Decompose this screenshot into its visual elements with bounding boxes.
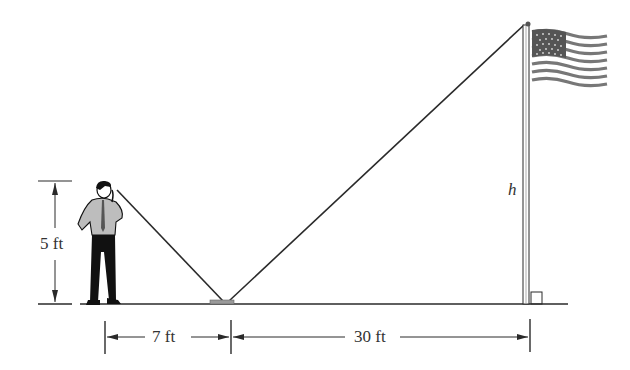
diagram-canvas: 5 ft 7 ft 30 ft h <box>0 0 630 370</box>
distance-30ft-label: 30 ft <box>354 328 386 346</box>
american-flag <box>532 28 607 86</box>
sight-lines <box>117 25 524 301</box>
person-height-label: 5 ft <box>40 235 63 253</box>
person-figure <box>78 181 122 305</box>
right-angle-marker <box>531 292 542 304</box>
mirror <box>210 300 234 304</box>
distance-7ft-label: 7 ft <box>152 328 175 346</box>
pole-height-label: h <box>508 181 517 199</box>
